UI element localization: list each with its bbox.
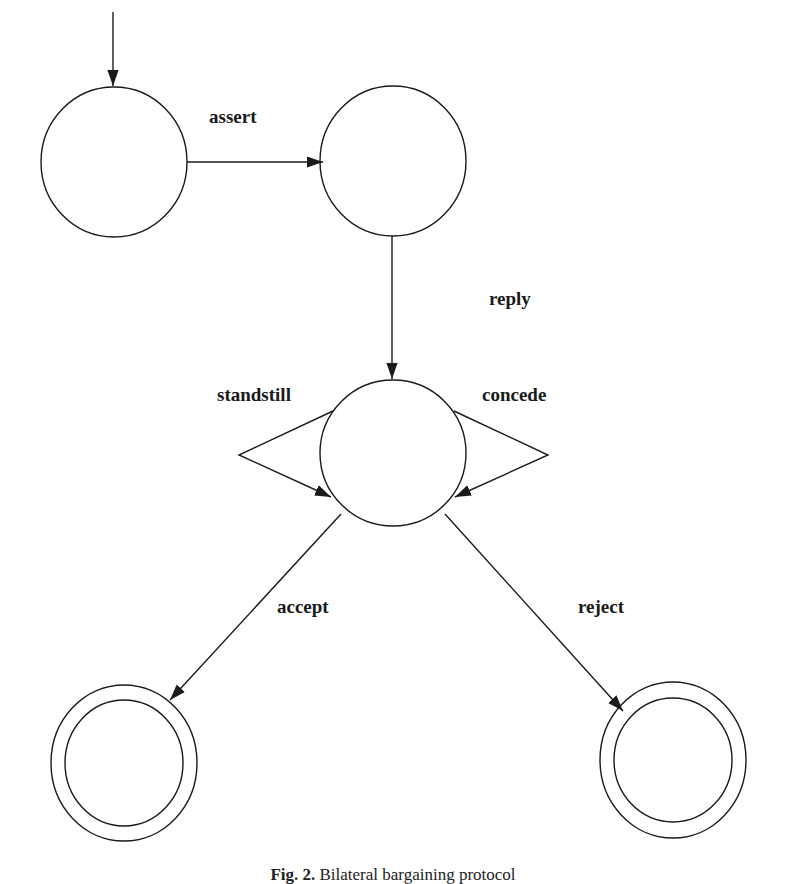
state-final-rejected	[600, 682, 746, 838]
transition-standstill-loop	[239, 411, 333, 497]
label-standstill: standstill	[217, 385, 291, 404]
state-initial	[41, 87, 187, 237]
state-final-accepted	[51, 685, 197, 841]
caption-prefix: Fig. 2.	[270, 865, 315, 884]
state-negotiation	[320, 380, 466, 526]
label-assert: assert	[209, 107, 256, 126]
transition-concede-loop	[454, 411, 548, 497]
state-asserted	[320, 86, 466, 236]
label-concede: concede	[482, 385, 546, 404]
caption-text: Bilateral bargaining protocol	[320, 865, 516, 884]
figure-caption: Fig. 2. Bilateral bargaining protocol	[0, 866, 786, 883]
label-reply: reply	[489, 289, 531, 308]
label-accept: accept	[277, 597, 329, 616]
label-reject: reject	[578, 597, 624, 616]
